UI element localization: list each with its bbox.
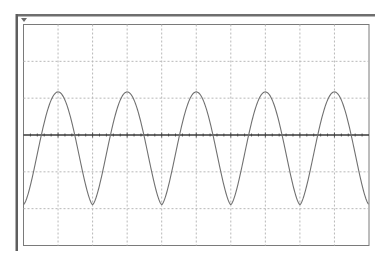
frame-top-bar bbox=[16, 14, 375, 17]
scope-canvas bbox=[0, 0, 389, 265]
oscilloscope-display bbox=[0, 0, 389, 265]
frame-left-bar bbox=[16, 14, 19, 251]
trigger-marker-icon[interactable] bbox=[21, 18, 27, 22]
